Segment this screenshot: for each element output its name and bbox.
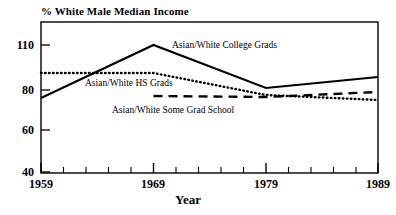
y-tick-label-80: 80 xyxy=(8,83,34,98)
series-label-some-grad-school: Asian/White Some Grad School xyxy=(112,105,234,115)
series-label-hs-grads: Asian/White HS Grads xyxy=(85,78,173,88)
x-tick-label-1959: 1959 xyxy=(18,177,64,192)
chart-figure: % White Male Median Income xyxy=(0,0,396,215)
x-tick-label-1979: 1979 xyxy=(243,177,289,192)
series-label-college-grads: Asian/White College Grads xyxy=(172,40,277,50)
x-tick-label-1989: 1989 xyxy=(355,177,396,192)
y-tick-label-110: 110 xyxy=(8,38,34,53)
x-axis-title: Year xyxy=(175,192,201,208)
y-tick-label-60: 60 xyxy=(8,123,34,138)
x-tick-label-1969: 1969 xyxy=(130,177,176,192)
